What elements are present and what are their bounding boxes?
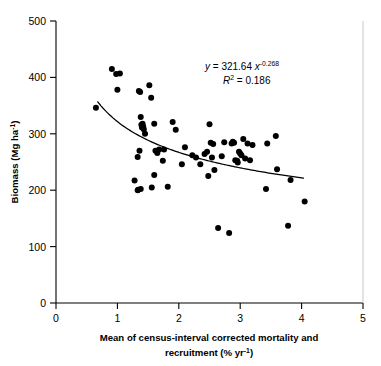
data-point <box>215 225 221 231</box>
data-point <box>205 173 211 179</box>
scatter-plot-figure: 500 400 300 200 100 0 0 1 2 3 4 5 B <box>0 0 381 366</box>
data-point <box>135 154 141 160</box>
data-point <box>235 160 241 166</box>
data-point <box>117 70 123 76</box>
data-point <box>207 121 213 127</box>
x-tick-label-3: 3 <box>237 312 243 324</box>
svg-text:Biomass (Mg ha-1): Biomass (Mg ha-1) <box>9 121 21 204</box>
data-point <box>210 141 216 147</box>
y-tick-label-100: 100 <box>28 241 46 253</box>
data-point <box>197 161 203 167</box>
y-tick-label-200: 200 <box>28 184 46 196</box>
data-point <box>109 66 115 72</box>
data-point <box>142 131 148 137</box>
data-point <box>182 144 188 150</box>
data-point <box>288 177 294 183</box>
data-point <box>211 167 217 173</box>
data-point <box>165 184 171 190</box>
data-point <box>93 105 99 111</box>
data-point <box>285 223 291 229</box>
data-point <box>138 114 144 120</box>
data-point <box>263 186 269 192</box>
y-axis-title: Biomass (Mg ha-1) <box>9 121 21 204</box>
data-point <box>160 158 166 164</box>
r-squared-value: = 0.186 <box>234 75 271 86</box>
x-axis-title-line-2-main: recruitment (% yr <box>165 347 244 358</box>
data-point <box>302 198 308 204</box>
data-point <box>173 127 179 133</box>
data-point <box>114 87 120 93</box>
data-point <box>137 148 143 154</box>
data-point <box>179 161 185 167</box>
y-tick-label-500: 500 <box>28 15 46 27</box>
data-point <box>219 153 225 159</box>
x-axis-title-line-2: recruitment (% yr-1) <box>165 347 253 359</box>
y-axis-title-main: Biomass (Mg ha <box>9 129 20 203</box>
data-point <box>138 186 144 192</box>
data-point <box>247 157 253 163</box>
x-tick-label-2: 2 <box>176 312 182 324</box>
data-point <box>146 82 152 88</box>
y-tick-label-400: 400 <box>28 71 46 83</box>
data-point <box>209 154 215 160</box>
data-point <box>170 119 176 125</box>
regression-annotation: y = 321.64 x-0.268 R2 = 0.186 <box>204 60 279 86</box>
data-point <box>149 184 155 190</box>
data-point <box>193 154 199 160</box>
data-point <box>151 121 157 127</box>
data-point <box>221 139 227 145</box>
data-point <box>226 230 232 236</box>
x-axis-title-line-1: Mean of census-interval corrected mortal… <box>100 332 319 343</box>
y-tick-label-0: 0 <box>40 297 46 309</box>
equation-body: = 321.64 <box>210 61 255 72</box>
x-tick-label-5: 5 <box>360 312 366 324</box>
x-tick-label-0: 0 <box>53 312 59 324</box>
data-point <box>132 178 138 184</box>
x-axis-ticks <box>56 303 363 309</box>
y-axis-tick-labels: 500 400 300 200 100 0 <box>28 15 46 309</box>
data-point <box>274 166 280 172</box>
y-tick-label-300: 300 <box>28 128 46 140</box>
equation-exponent: -0.268 <box>260 60 279 67</box>
data-point <box>231 140 237 146</box>
chart-canvas: 500 400 300 200 100 0 0 1 2 3 4 5 B <box>0 0 381 366</box>
x-axis-title: Mean of census-interval corrected mortal… <box>100 332 319 358</box>
x-axis-tick-labels: 0 1 2 3 4 5 <box>53 312 366 324</box>
data-point <box>249 142 255 148</box>
x-tick-label-1: 1 <box>114 312 120 324</box>
r-squared-var: R <box>223 75 230 86</box>
r-squared-label: R2 = 0.186 <box>223 74 271 86</box>
data-point <box>204 149 210 155</box>
x-tick-label-4: 4 <box>299 312 305 324</box>
data-point <box>137 89 143 95</box>
regression-equation-label: y = 321.64 x-0.268 <box>204 60 279 72</box>
data-point <box>161 147 167 153</box>
data-point <box>240 136 246 142</box>
y-axis-ticks <box>50 21 56 303</box>
scatter-points-group <box>93 66 308 236</box>
data-point <box>148 95 154 101</box>
y-axis-title-tail: ) <box>9 121 20 124</box>
data-point <box>264 140 270 146</box>
data-point <box>151 172 157 178</box>
x-axis-title-line-2-tail: ) <box>250 347 253 358</box>
data-point <box>273 133 279 139</box>
